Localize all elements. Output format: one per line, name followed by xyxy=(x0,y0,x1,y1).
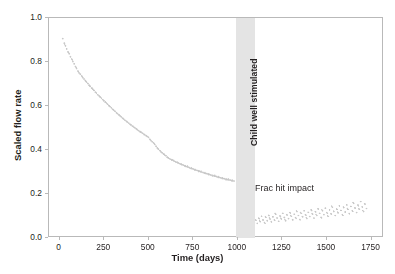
scatter-plot-canvas xyxy=(49,18,382,236)
y-tick-label: 1.0 xyxy=(16,12,42,22)
x-tick-label: 0 xyxy=(37,242,81,252)
x-tick-label: 1000 xyxy=(215,242,259,252)
x-tick-label: 1500 xyxy=(304,242,348,252)
y-tick-label: 0.6 xyxy=(16,100,42,110)
y-tick-mark xyxy=(45,237,48,238)
y-tick-label: 0.8 xyxy=(16,56,42,66)
y-tick-label: 0.0 xyxy=(16,232,42,242)
x-tick-label: 250 xyxy=(81,242,125,252)
x-tick-mark xyxy=(103,237,104,240)
x-tick-mark xyxy=(326,237,327,240)
x-axis-title: Time (days) xyxy=(0,252,395,263)
x-tick-label: 1250 xyxy=(259,242,303,252)
x-tick-mark xyxy=(59,237,60,240)
x-tick-mark xyxy=(281,237,282,240)
x-tick-label: 500 xyxy=(126,242,170,252)
frac-hit-impact-annotation: Frac hit impact xyxy=(255,183,314,193)
x-tick-mark xyxy=(192,237,193,240)
x-tick-mark xyxy=(237,237,238,240)
x-tick-label: 1750 xyxy=(349,242,393,252)
plot-area: Child well stimulated Frac hit impact xyxy=(48,17,383,237)
x-tick-mark xyxy=(371,237,372,240)
figure-scaled-flow-rate: Scaled flow rate 0.00.20.40.60.81.0 Chil… xyxy=(0,0,395,274)
y-tick-label: 0.2 xyxy=(16,188,42,198)
figure-caption xyxy=(8,265,338,274)
x-tick-mark xyxy=(148,237,149,240)
x-tick-label: 750 xyxy=(170,242,214,252)
child-well-stimulated-label: Child well stimulated xyxy=(249,58,259,146)
y-tick-label: 0.4 xyxy=(16,144,42,154)
